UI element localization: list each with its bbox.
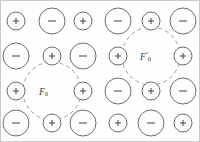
sign-horizontal-stroke [147,122,155,123]
ion-positive [142,12,160,30]
ion-positive [74,82,92,100]
ionic-lattice-figure: F0 F′0 [0,0,200,142]
force-shells-layer [23,27,180,120]
force-label-right: F′0 [140,51,151,63]
sign-horizontal-stroke [12,55,20,56]
ion-negative [70,43,96,69]
force-label-right-subscript: 0 [148,55,151,62]
ion-positive [142,82,160,100]
sign-horizontal-stroke [114,20,122,21]
ion-negative [3,43,29,69]
ion-lattice-layer [3,8,196,136]
ion-negative [39,8,65,34]
sign-horizontal-stroke [179,90,187,91]
ion-positive [174,47,192,65]
sign-vertical-stroke [182,120,183,126]
force-shell-left [23,62,81,120]
sign-horizontal-stroke [179,20,187,21]
ion-positive [74,12,92,30]
ion-positive [7,82,25,100]
ion-positive [174,114,192,132]
sign-vertical-stroke [51,120,52,126]
force-label-left: F0 [39,86,48,98]
ion-negative [105,78,131,104]
sign-vertical-stroke [117,120,118,126]
ion-positive [109,114,127,132]
ion-negative [170,78,196,104]
sign-vertical-stroke [51,53,52,59]
sign-horizontal-stroke [114,90,122,91]
ion-positive [109,47,127,65]
ion-positive [7,12,25,30]
ion-positive [43,114,61,132]
sign-vertical-stroke [82,18,83,24]
ion-negative [105,8,131,34]
sign-vertical-stroke [150,88,151,94]
ion-negative [138,110,164,136]
ion-negative [3,110,29,136]
sign-vertical-stroke [15,88,16,94]
sign-horizontal-stroke [12,122,20,123]
sign-horizontal-stroke [79,122,87,123]
ion-negative [170,8,196,34]
sign-vertical-stroke [82,88,83,94]
force-label-left-subscript: 0 [45,90,48,97]
ion-positive [43,47,61,65]
sign-vertical-stroke [117,53,118,59]
lattice-canvas [1,1,200,142]
sign-vertical-stroke [150,18,151,24]
ion-negative [70,110,96,136]
sign-vertical-stroke [182,53,183,59]
sign-horizontal-stroke [48,20,56,21]
sign-vertical-stroke [15,18,16,24]
sign-horizontal-stroke [79,55,87,56]
